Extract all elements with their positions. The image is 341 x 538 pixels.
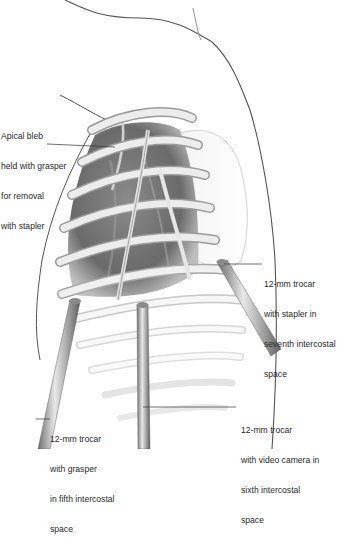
label-apical-bleb: Apical bleb held with grasper for remova…: [1, 111, 66, 241]
arm-outline: [60, 95, 112, 122]
label-trocar-camera: 12-mm trocar with video camera in sixth …: [241, 405, 319, 535]
trocar-camera: [137, 305, 150, 449]
label-trocar-stapler: 12-mm trocar with stapler in seventh int…: [264, 259, 336, 389]
label-trocar-grasper: 12-mm trocar with grasper in fifth inter…: [50, 414, 114, 538]
